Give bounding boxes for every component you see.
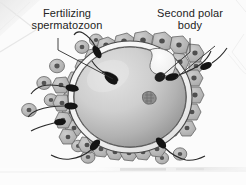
figure-canvas: Fertilizing spermatozoon Second polar bo… (0, 0, 246, 185)
oocyte (74, 47, 186, 147)
label-fertilizing-spermatozoon: Fertilizing spermatozoon (14, 8, 120, 31)
label-polar-line2: body (140, 20, 240, 32)
label-second-polar-body: Second polar body (140, 8, 240, 31)
label-polar-line1: Second polar (157, 7, 223, 19)
label-fertilizing-line1: Fertilizing (43, 7, 91, 19)
label-fertilizing-line2: spermatozoon (14, 20, 120, 32)
pronucleus (142, 91, 156, 104)
